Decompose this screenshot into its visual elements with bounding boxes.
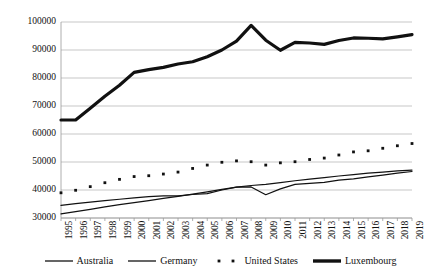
data-point [74,189,77,192]
data-point [279,161,282,164]
x-axis-tick-label: 2014 [343,221,353,239]
plot-svg [0,0,440,240]
series-germany [61,172,412,206]
data-point [337,154,340,157]
data-point [264,164,267,167]
data-point [411,142,414,145]
x-axis-tick-label: 1998 [109,221,119,239]
x-axis-tick-label: 2009 [270,221,280,239]
data-point [396,144,399,147]
data-point [308,158,311,161]
x-axis-tick-label: 2018 [401,221,411,239]
data-point [367,149,370,152]
y-axis-tick-label: 100000 [0,17,56,27]
series-layer [60,25,414,213]
y-axis-tick-label: 40000 [0,185,56,195]
dotted-swatch [211,256,241,266]
y-axis-tick-label: 70000 [0,101,56,111]
x-axis-tick-label: 2016 [372,221,382,239]
data-point [162,173,165,176]
series-united-states [60,142,414,194]
legend-label: United States [244,256,298,266]
x-axis-tick-label: 2008 [255,221,265,239]
x-axis-tick-label: 2000 [138,221,148,239]
x-axis-tick-label: 2011 [299,221,309,239]
thin-line-swatch [44,256,74,266]
legend-label: Germany [160,256,197,266]
x-axis-tick-label: 1995 [65,221,75,239]
x-axis-tick-label: 2007 [241,221,251,239]
axis-lines [61,22,412,221]
y-axis-tick-label: 90000 [0,45,56,55]
thin-line-swatch [127,256,157,266]
data-point [220,161,223,164]
x-axis-tick-label: 2005 [211,221,221,239]
thick-line-swatch [312,256,342,266]
data-point [191,167,194,170]
data-point [89,185,92,188]
plot-area: 1000009000080000700006000050000400003000… [0,0,440,240]
legend-item[interactable]: United States [211,256,298,266]
x-axis-tick-label: 1996 [80,221,90,239]
data-point [60,191,63,194]
data-point [235,159,238,162]
data-point [381,147,384,150]
gridlines [61,22,412,218]
x-axis-tick-label: 2003 [182,221,192,239]
legend-label: Australia [77,256,114,266]
chart-legend: AustraliaGermanyUnited StatesLuxembourg [0,250,440,272]
x-axis-tick-label: 2017 [387,221,397,239]
y-axis-tick-label: 80000 [0,73,56,83]
data-point [323,157,326,160]
x-axis-tick-label: 2006 [226,221,236,239]
x-axis-tick-label: 2002 [167,221,177,239]
x-axis-tick-label: 1999 [124,221,134,239]
data-point [352,151,355,154]
x-axis-tick-label: 2015 [358,221,368,239]
y-axis-tick-label: 50000 [0,157,56,167]
x-axis-tick-label: 1997 [94,221,104,239]
legend-label: Luxembourg [345,256,396,266]
series-australia [61,170,412,214]
y-axis-tick-labels: 1000009000080000700006000050000400003000… [0,0,56,240]
line-chart: 1000009000080000700006000050000400003000… [0,0,440,276]
legend-item[interactable]: Australia [44,256,114,266]
legend-item[interactable]: Germany [127,256,197,266]
data-point [294,160,297,163]
data-point [250,160,253,163]
data-point [206,164,209,167]
data-point [133,175,136,178]
data-point [177,171,180,174]
x-axis-tick-label: 2019 [416,221,426,239]
data-point [103,181,106,184]
x-axis-tick-label: 2013 [328,221,338,239]
data-point [147,174,150,177]
x-axis-tick-label: 2001 [153,221,163,239]
x-axis-tick-label: 2012 [314,221,324,239]
data-point [118,178,121,181]
x-axis-tick-label: 2004 [197,221,207,239]
legend-item[interactable]: Luxembourg [312,256,396,266]
y-axis-tick-label: 60000 [0,129,56,139]
x-axis-tick-label: 2010 [284,221,294,239]
